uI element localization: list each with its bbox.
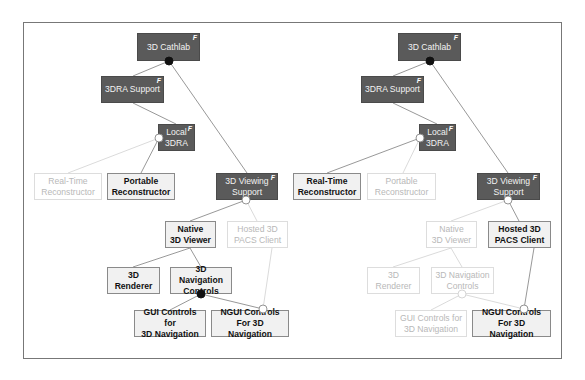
feature-node-portable-reconstructor[interactable]: Portable Reconstructor [107, 173, 175, 200]
feature-node-label: 3D Renderer [376, 270, 412, 292]
feature-node-label: 3D Renderer [115, 270, 153, 292]
feature-node-real-time-reconstructor[interactable]: Real-Time Reconstructor [34, 173, 102, 200]
feature-node-3d-viewing-support[interactable]: 3D Viewing SupportF [216, 173, 278, 200]
feature-node-native-3d-viewer[interactable]: Native 3D Viewer [426, 221, 477, 248]
feature-badge-icon: F [193, 34, 197, 42]
feature-badge-icon: F [449, 125, 453, 133]
feature-node-real-time-reconstructor[interactable]: Real-Time Reconstructor [293, 173, 361, 200]
edge-line [133, 103, 176, 124]
feature-node-label: Native 3D Viewer [432, 224, 472, 246]
feature-node-label: Hosted 3D PACS Client [495, 224, 545, 246]
feature-node-label: GUI Controls for 3D Navigation [138, 307, 202, 340]
feature-node-label: 3D Navigation Controls [436, 270, 490, 292]
feature-node-label: Native 3D Viewer [170, 224, 211, 246]
feature-node-label: Local 3DRA [426, 127, 449, 149]
feature-badge-icon: F [533, 174, 537, 182]
feature-node-label: 3D Viewing Support [225, 176, 268, 198]
feature-node-gui-controls[interactable]: GUI Controls for 3D Navigation [134, 310, 206, 337]
feature-node-local-3dra[interactable]: Local 3DRAF [419, 124, 456, 151]
feature-node-hosted-3d-pacs-client[interactable]: Hosted 3D PACS Client [488, 221, 551, 248]
feature-node-label: 3D Navigation Controls [174, 264, 228, 297]
feature-node-label: 3D Cathlab [147, 42, 190, 53]
edge-line [133, 61, 169, 76]
edge-line [508, 200, 519, 221]
feature-node-label: Local 3DRA [165, 127, 188, 149]
edge-line [68, 138, 159, 173]
feature-node-ngui-controls[interactable]: NGUI Controls For 3D Navigation [472, 310, 551, 337]
feature-node-3d-viewing-support[interactable]: 3D Viewing SupportF [477, 173, 540, 200]
feature-node-label: NGUI Controls For 3D Navigation [215, 307, 285, 340]
feature-node-3d-renderer[interactable]: 3D Renderer [107, 267, 160, 294]
feature-node-cathlab[interactable]: 3D CathlabF [398, 33, 461, 61]
feature-node-label: GUI Controls for 3D Navigation [400, 313, 462, 335]
feature-node-label: 3D Cathlab [408, 42, 451, 53]
feature-node-hosted-3d-pacs-client[interactable]: Hosted 3D PACS Client [227, 221, 288, 248]
feature-node-label: 3DRA Support [105, 84, 160, 95]
feature-node-3dra-support[interactable]: 3DRA SupportF [361, 76, 424, 103]
feature-node-label: Portable Reconstructor [375, 176, 429, 198]
feature-badge-icon: F [454, 34, 458, 42]
feature-node-ngui-controls[interactable]: NGUI Controls For 3D Navigation [211, 310, 289, 337]
feature-node-label: NGUI Controls For 3D Navigation [476, 307, 547, 340]
edge-line [169, 61, 247, 173]
feature-node-local-3dra[interactable]: Local 3DRAF [158, 124, 195, 151]
edge-line [141, 138, 159, 173]
edge-line [190, 200, 246, 221]
feature-node-label: Real-Time Reconstructor [41, 176, 95, 198]
feature-node-label: Hosted 3D PACS Client [234, 224, 281, 246]
feature-node-label: Portable Reconstructor [112, 176, 171, 198]
edge-line [246, 200, 257, 221]
feature-badge-icon: F [157, 77, 161, 85]
feature-node-label: 3D Viewing Support [487, 176, 530, 198]
feature-node-3d-navigation-controls[interactable]: 3D Navigation Controls [431, 267, 494, 294]
feature-node-portable-reconstructor[interactable]: Portable Reconstructor [367, 173, 436, 200]
edge-line [393, 248, 451, 267]
edge-line [451, 248, 462, 267]
edge-line [431, 294, 462, 310]
feature-node-3dra-support[interactable]: 3DRA SupportF [101, 76, 164, 103]
edge-line [393, 61, 430, 76]
feature-node-cathlab[interactable]: 3D CathlabF [137, 33, 200, 61]
feature-badge-icon: F [188, 125, 192, 133]
feature-node-3d-navigation-controls[interactable]: 3D Navigation Controls [170, 267, 232, 294]
feature-node-3d-renderer[interactable]: 3D Renderer [367, 267, 420, 294]
feature-node-label: 3DRA Support [365, 84, 420, 95]
edge-line [263, 248, 272, 309]
feature-badge-icon: F [417, 77, 421, 85]
feature-node-gui-controls[interactable]: GUI Controls for 3D Navigation [395, 310, 467, 337]
feature-badge-icon: F [271, 174, 275, 182]
edge-line [430, 61, 508, 173]
feature-node-label: Real-Time Reconstructor [298, 176, 357, 198]
edge-line [524, 248, 534, 309]
feature-node-native-3d-viewer[interactable]: Native 3D Viewer [165, 221, 216, 248]
edge-line [393, 103, 437, 124]
edge-line [451, 200, 508, 221]
